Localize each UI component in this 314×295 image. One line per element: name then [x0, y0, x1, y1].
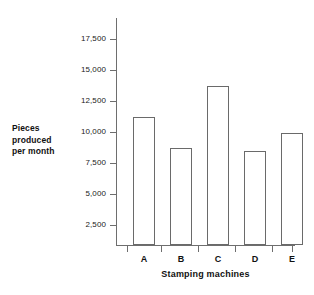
y-tick-label-12500: 12,500 [60, 97, 106, 105]
x-axis-line [116, 245, 295, 246]
y-tick-label-7500: 7,500 [60, 159, 106, 167]
y-tick-label-17500-wrap: 17,500 [60, 35, 106, 43]
bar-A [133, 117, 155, 245]
x-tick-2 [198, 246, 199, 252]
x-tick-4 [272, 246, 273, 252]
x-axis-title: Stamping machines [116, 269, 295, 279]
y-tick-label-5000-wrap: 5,000 [60, 190, 106, 198]
bar-E [281, 133, 303, 245]
bar-chart: Pieces produced per month 17,500 15,000 … [0, 0, 314, 295]
x-tick-1 [161, 246, 162, 252]
x-tick-label-C: C [206, 254, 230, 264]
y-tick-label-15000: 15,000 [60, 66, 106, 74]
y-tick-label-5000: 5,000 [60, 190, 106, 198]
x-tick-label-A: A [132, 254, 156, 264]
y-tick-label-2500-wrap: 2,500 [60, 221, 106, 229]
y-tick-label-10000-wrap: 10,000 [60, 128, 106, 136]
y-tick-label-15000-wrap: 15,000 [60, 66, 106, 74]
x-tick-label-B: B [169, 254, 193, 264]
bar-C [207, 86, 229, 245]
bar-D [244, 151, 266, 245]
y-tick-17500 [110, 39, 117, 40]
x-tick-label-D: D [243, 254, 267, 264]
y-tick-15000 [110, 70, 117, 71]
y-tick-label-10000: 10,000 [60, 128, 106, 136]
plot-area: 17,500 15,000 12,500 10,000 7,500 5,000 … [0, 0, 314, 295]
y-tick-10000 [110, 132, 117, 133]
x-tick-5 [292, 246, 293, 252]
y-tick-2500 [110, 225, 117, 226]
y-tick-label-17500: 17,500 [60, 35, 106, 43]
y-tick-5000 [110, 194, 117, 195]
bar-B [170, 148, 192, 245]
y-tick-label-2500: 2,500 [60, 221, 106, 229]
y-tick-7500 [110, 163, 117, 164]
x-tick-label-E: E [280, 254, 304, 264]
y-tick-12500 [110, 101, 117, 102]
x-tick-3 [235, 246, 236, 252]
x-tick-0 [127, 246, 128, 252]
y-tick-label-7500-wrap: 7,500 [60, 159, 106, 167]
y-tick-label-12500-wrap: 12,500 [60, 97, 106, 105]
